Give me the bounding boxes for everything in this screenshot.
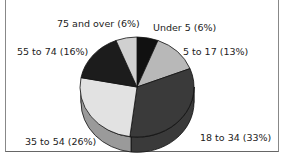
- label-75-over: 75 and over (6%): [57, 18, 140, 29]
- label-18-34: 18 to 34 (33%): [200, 132, 271, 143]
- label-5-17: 5 to 17 (13%): [183, 46, 248, 57]
- label-35-54: 35 to 54 (26%): [25, 136, 96, 147]
- label-under-5: Under 5 (6%): [153, 22, 216, 33]
- label-55-74: 55 to 74 (16%): [17, 46, 88, 57]
